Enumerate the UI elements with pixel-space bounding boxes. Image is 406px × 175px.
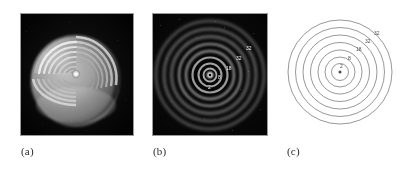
panel-c-caption: (c) <box>287 145 300 157</box>
panel-b-shell-label-32-inner: 32 <box>236 56 241 61</box>
panel-a <box>20 13 134 136</box>
figure-root: (a) <box>0 0 406 175</box>
panel-c-shell-label-18: 18 <box>356 47 361 52</box>
panel-a-caption: (a) <box>21 145 34 157</box>
panel-c: 2 8 18 32 32 <box>286 16 394 128</box>
panel-b-caption: (b) <box>153 145 166 157</box>
panel-b-shell-label-32-outer: 32 <box>246 46 251 51</box>
panel-b-density-map <box>152 13 268 136</box>
panel-c-shell-label-32-inner: 32 <box>365 39 370 44</box>
panel-b: 2 8 18 32 32 <box>152 13 268 136</box>
panel-b-shell-label-18: 18 <box>226 66 231 71</box>
panel-c-shell-label-8: 8 <box>348 56 351 61</box>
nucleus-marker <box>339 71 342 74</box>
panel-c-shell-label-32-outer: 32 <box>374 31 379 36</box>
panel-b-shell-label-2: 2 <box>208 85 211 90</box>
panel-b-shell-label-8: 8 <box>218 75 221 80</box>
panel-c-shell-label-2: 2 <box>340 64 343 69</box>
panel-a-volume-render <box>20 13 134 136</box>
